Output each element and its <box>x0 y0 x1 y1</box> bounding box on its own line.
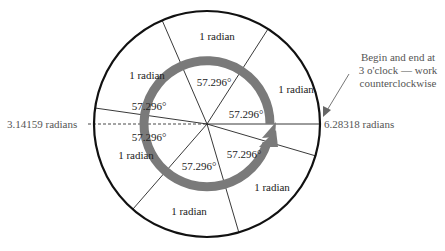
degree-label: 57.296° <box>182 160 217 172</box>
two-pi-radians-label: 6.28318 radians <box>324 118 394 130</box>
pi-radians-label: 3.14159 radians <box>7 118 77 130</box>
degree-label: 57.296° <box>227 148 262 160</box>
radial-lines <box>95 20 320 233</box>
annotation-line-1: Begin and end at <box>361 51 435 63</box>
pointer-arrowhead-icon <box>323 106 331 117</box>
sector-label: 1 radian <box>199 30 235 42</box>
annotation-line-3: counterclockwise <box>360 77 437 89</box>
sector-label: 1 radian <box>118 149 154 161</box>
degree-label: 57.296° <box>132 131 167 143</box>
sector-label: 1 radian <box>278 83 314 95</box>
degree-label: 57.296° <box>197 76 232 88</box>
sector-label: 1 radian <box>171 205 207 217</box>
pointer-line <box>326 74 349 112</box>
annotation-line-2: 3 o'clock — work <box>359 64 438 76</box>
degree-label: 57.296° <box>229 108 264 120</box>
radian-circle-diagram: 1 radian 1 radian 1 radian 1 radian 1 ra… <box>0 0 445 251</box>
sector-label: 1 radian <box>254 181 290 193</box>
degree-label: 57.296° <box>132 100 167 112</box>
sector-label: 1 radian <box>129 69 165 81</box>
